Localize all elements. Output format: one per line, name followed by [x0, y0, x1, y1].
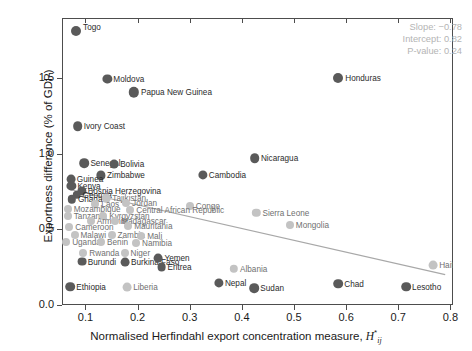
x-tick-mark — [242, 305, 243, 310]
data-point — [66, 282, 76, 292]
x-tick-label: 0.2 — [118, 311, 158, 323]
data-point — [73, 122, 83, 132]
x-tick-mark-top — [85, 18, 86, 23]
x-tick-mark-top — [398, 18, 399, 23]
scatter-plot-figure: Exportness difference (% of GDP) Normali… — [0, 0, 472, 351]
x-tick-label: 0.4 — [222, 311, 262, 323]
y-tick-label: 1.5 — [16, 71, 54, 83]
data-point — [121, 258, 130, 267]
data-point — [334, 279, 344, 289]
data-point — [71, 26, 81, 36]
data-point — [250, 283, 260, 293]
data-point — [79, 249, 87, 257]
pvalue-stat: P-value: 0.24 — [403, 46, 462, 58]
data-point — [401, 282, 411, 292]
y-tick-mark — [57, 154, 62, 155]
data-point — [99, 212, 107, 220]
y-tick-label: 1.0 — [16, 147, 54, 159]
x-tick-mark — [398, 305, 399, 310]
regression-stats-annotation: Slope: −0.78 Intercept: 0.82 P-value: 0.… — [403, 22, 462, 58]
x-tick-label: 0.1 — [65, 311, 105, 323]
data-point — [77, 257, 86, 266]
data-point — [65, 223, 73, 231]
data-point — [250, 154, 260, 164]
plot-area: TogoMoldovaPapua New GuineaHondurasIvory… — [62, 18, 453, 305]
x-tick-label: 0.7 — [378, 311, 418, 323]
data-point — [124, 222, 132, 230]
data-point — [80, 158, 90, 168]
data-point — [87, 217, 95, 225]
x-tick-label: 0.5 — [274, 311, 314, 323]
x-tick-mark-top — [138, 18, 139, 23]
data-point — [333, 73, 343, 83]
data-point — [121, 249, 129, 257]
data-point — [97, 238, 105, 246]
x-axis-title: Normalised Herfindahl export concentrati… — [0, 328, 472, 345]
data-point — [111, 217, 119, 225]
x-tick-mark-top — [242, 18, 243, 23]
x-tick-mark — [450, 305, 451, 310]
data-point — [186, 202, 194, 210]
data-point — [286, 221, 294, 229]
x-tick-mark-top — [190, 18, 191, 23]
data-point — [157, 263, 166, 272]
slope-stat: Slope: −0.78 — [403, 22, 462, 34]
x-tick-mark — [190, 305, 191, 310]
data-point — [429, 261, 438, 270]
x-tick-label: 0.3 — [170, 311, 210, 323]
data-point — [110, 160, 119, 169]
data-point — [62, 238, 70, 246]
x-tick-mark — [294, 305, 295, 310]
x-tick-mark — [85, 305, 86, 310]
data-point — [132, 239, 140, 247]
data-point — [154, 254, 163, 263]
x-tick-label: 0.8 — [430, 311, 470, 323]
y-tick-label: 0.0 — [16, 298, 54, 310]
x-tick-mark — [346, 305, 347, 310]
data-point — [123, 282, 132, 291]
data-point — [71, 231, 79, 239]
y-tick-mark — [57, 305, 62, 306]
x-tick-mark-top — [346, 18, 347, 23]
y-tick-label: 0.5 — [16, 222, 54, 234]
data-point — [64, 212, 72, 220]
x-tick-mark — [138, 305, 139, 310]
y-tick-mark — [57, 78, 62, 79]
y-tick-mark — [57, 229, 62, 230]
data-point — [91, 200, 99, 208]
data-point — [108, 231, 116, 239]
data-point — [126, 206, 134, 214]
x-tick-label: 0.6 — [326, 311, 366, 323]
intercept-stat: Intercept: 0.82 — [403, 34, 462, 46]
x-tick-mark-top — [294, 18, 295, 23]
